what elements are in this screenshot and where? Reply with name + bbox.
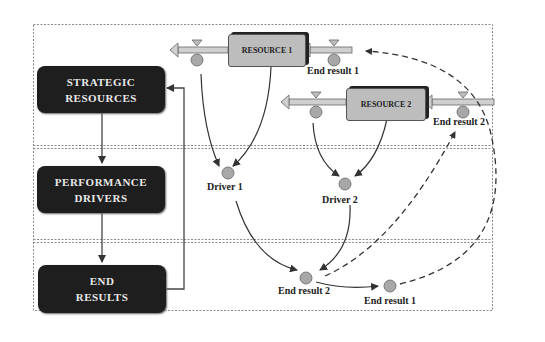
performance-drivers-line2: DRIVERS [74, 190, 127, 206]
end-result-1-flow-label: End result 1 [307, 65, 359, 76]
driver-1-label: Driver 1 [207, 181, 243, 192]
end-results-line2: RESULTS [76, 289, 129, 305]
strategic-resources-line1: STRATEGIC [67, 74, 135, 90]
end-result-2-flow-label: End result 2 [433, 116, 485, 127]
performance-drivers-line1: PERFORMANCE [55, 174, 147, 190]
strategic-resources-line2: RESOURCES [65, 90, 137, 106]
end-result-2-node-label: End result 2 [278, 285, 330, 296]
end-result-1-node-label: End result 1 [364, 295, 416, 306]
resource-2-label: RESOURCE 2 [361, 100, 411, 109]
driver-2-label: Driver 2 [322, 194, 358, 205]
resource-1-stock: RESOURCE 1 [228, 34, 306, 67]
end-results-line1: END [90, 273, 115, 289]
dashed-feedback-arrows [325, 51, 496, 284]
resource-2-stock: RESOURCE 2 [346, 88, 426, 121]
end-results-box: END RESULTS [38, 265, 166, 313]
strategic-resources-box: STRATEGIC RESOURCES [37, 66, 165, 113]
performance-drivers-box: PERFORMANCE DRIVERS [37, 166, 165, 213]
resource-1-label: RESOURCE 1 [242, 46, 292, 55]
